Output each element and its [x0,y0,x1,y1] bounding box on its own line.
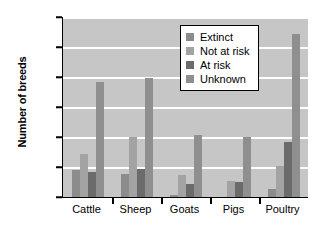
x-tick-mark [259,197,261,204]
y-tick-mark [56,76,62,78]
bar [178,175,186,198]
x-tick-label: Goats [170,203,199,215]
bar [80,154,88,198]
bar-group [112,17,161,197]
legend-swatch-icon [186,33,194,41]
x-tick-label: Pigs [223,203,244,215]
bar [88,172,96,198]
y-tick-mark [56,16,62,18]
x-tick-mark [210,197,212,204]
x-tick-label: Sheep [120,203,152,215]
bar [243,137,251,197]
legend: ExtinctNot at riskAt riskUnknown [180,25,259,91]
bar [227,181,235,197]
bar [194,135,202,197]
x-tick-label: Poultry [265,203,299,215]
legend-swatch-icon [186,61,194,69]
y-tick-mark [56,166,62,168]
bar [145,78,153,197]
legend-item: Unknown [186,72,250,86]
legend-label: Extinct [200,32,233,43]
bar [170,195,178,197]
y-tick-mark [56,46,62,48]
legend-swatch-icon [186,47,194,55]
y-axis-title: Number of breeds [16,22,28,182]
bar [276,166,284,197]
bar-group [259,17,308,197]
bar [292,34,300,198]
legend-item: Extinct [186,30,250,44]
legend-item: Not at risk [186,44,250,58]
y-tick-mark [56,196,62,198]
legend-label: At risk [200,60,231,71]
legend-item: At risk [186,58,250,72]
y-tick-mark [56,136,62,138]
legend-label: Unknown [200,74,246,85]
bar [137,169,145,197]
bar [284,142,292,197]
bar [268,189,276,197]
x-tick-mark [161,197,163,204]
legend-swatch-icon [186,75,194,83]
bar [72,170,80,197]
y-tick-mark [56,106,62,108]
bar-group [63,17,112,197]
bar [96,82,104,198]
bar [121,174,129,197]
x-tick-label: Cattle [72,203,101,215]
bar [235,182,243,197]
bar [129,137,137,197]
bar [186,184,194,198]
x-tick-mark [112,197,114,204]
legend-label: Not at risk [200,46,250,57]
bar-chart: Number of breeds 02004006008001,0001,200… [0,0,320,229]
